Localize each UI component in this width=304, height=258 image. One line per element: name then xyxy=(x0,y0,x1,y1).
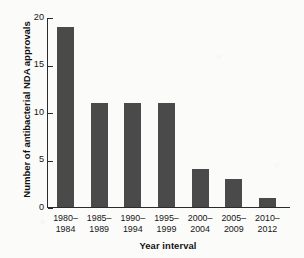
y-axis-tick: 5 xyxy=(48,161,53,162)
figure-container: concern in the United States Number of a… xyxy=(0,0,304,258)
y-axis-tick: 10 xyxy=(48,113,53,114)
bar xyxy=(259,198,276,208)
x-axis-category-label: 2010–2012 xyxy=(245,213,289,235)
y-axis-tick-label: 10 xyxy=(34,107,44,117)
y-axis-tick-label: 5 xyxy=(39,154,44,164)
bar xyxy=(158,103,175,208)
bar xyxy=(124,103,141,208)
bar xyxy=(57,27,74,208)
bar xyxy=(225,179,242,208)
x-axis-category-line: 2012 xyxy=(245,224,289,235)
y-axis-tick-label: 20 xyxy=(34,12,44,22)
y-axis-tick: 20 xyxy=(48,18,53,19)
y-axis-tick-label: 15 xyxy=(34,59,44,69)
x-axis-line xyxy=(47,207,290,208)
bar xyxy=(192,169,209,207)
cut-off-caption-text: concern in the United States xyxy=(0,0,304,3)
x-axis-title: Year interval xyxy=(46,240,290,251)
x-axis-category-line: 2010– xyxy=(245,213,289,224)
bar xyxy=(91,103,108,208)
y-axis-tick-label: 0 xyxy=(39,202,44,212)
plot-area: 05101520 xyxy=(47,18,290,208)
y-axis-title: Number of antibacterial NDA approvals xyxy=(21,10,32,210)
y-axis-tick: 0 xyxy=(48,208,53,209)
y-axis-tick: 15 xyxy=(48,66,53,67)
